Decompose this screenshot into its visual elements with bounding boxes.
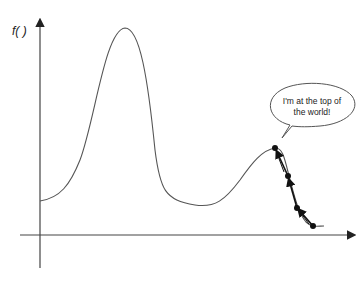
bubble-line-2: the world! (270, 107, 354, 118)
bubble-line-1: I'm at the top of (270, 96, 354, 107)
function-curve (40, 28, 324, 226)
y-axis-label: f( ) (12, 24, 27, 38)
ascent-path (275, 148, 313, 226)
diagram-canvas (0, 0, 364, 281)
speech-bubble-text: I'm at the top of the world! (270, 96, 354, 118)
